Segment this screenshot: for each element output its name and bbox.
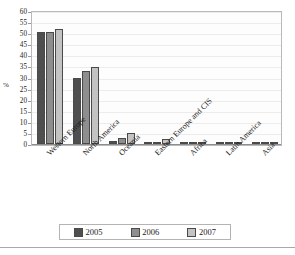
legend-item: 2005	[74, 228, 103, 237]
bar	[91, 67, 99, 144]
bar	[37, 32, 45, 144]
legend-item-label: 2005	[86, 228, 103, 237]
chart-figure: % 051015202530354045505560 Western Europ…	[0, 0, 295, 255]
legend-item-label: 2007	[199, 228, 216, 237]
y-axis-tickmark	[28, 12, 31, 13]
y-axis-tickmark	[28, 134, 31, 135]
y-axis-tickmark	[28, 34, 31, 35]
footer-divider	[0, 247, 295, 248]
y-axis-tickmark	[28, 45, 31, 46]
y-axis-tick-label: 10	[9, 119, 27, 126]
y-axis-tickmark	[28, 101, 31, 102]
y-axis-tick-label: 35	[9, 64, 27, 71]
y-axis-tickmark	[28, 79, 31, 80]
legend-item: 2006	[131, 228, 160, 237]
y-axis-tickmark	[28, 67, 31, 68]
legend-item: 2007	[187, 228, 216, 237]
y-axis-tick-label: 45	[9, 42, 27, 49]
chart-legend: 2005 2006 2007	[59, 224, 231, 240]
bar	[55, 29, 63, 144]
bar	[82, 71, 90, 144]
bar-group	[211, 11, 247, 144]
y-axis-tick-label: 30	[9, 75, 27, 82]
x-axis-category-labels: Western EuropeNorth AmericaOceaniaEaster…	[0, 149, 295, 215]
y-axis-tick-label: 50	[9, 31, 27, 38]
y-axis-tickmark	[28, 145, 31, 146]
legend-swatch-icon	[131, 228, 140, 237]
bar	[180, 142, 188, 144]
y-axis-title: %	[3, 82, 9, 89]
y-axis-tickmark	[28, 112, 31, 113]
bar-group	[32, 11, 68, 144]
y-axis-tick-label: 20	[9, 97, 27, 104]
y-axis-tick-label: 5	[9, 130, 27, 137]
bar	[46, 32, 54, 144]
y-axis-tick-labels: 051015202530354045505560	[9, 0, 27, 160]
legend-swatch-icon	[74, 228, 83, 237]
y-axis-tickmark	[28, 90, 31, 91]
y-axis-tick-label: 15	[9, 108, 27, 115]
y-axis-tick-label: 60	[9, 9, 27, 16]
bar	[252, 142, 260, 144]
y-axis-tickmark	[28, 56, 31, 57]
bar	[216, 142, 224, 144]
bar	[109, 141, 117, 144]
y-axis-tickmark	[28, 23, 31, 24]
bar-group	[140, 11, 176, 144]
y-axis-tickmark	[28, 123, 31, 124]
legend-swatch-icon	[187, 228, 196, 237]
y-axis-tick-label: 55	[9, 20, 27, 27]
legend-item-label: 2006	[142, 228, 159, 237]
bar	[144, 142, 152, 144]
y-axis-tick-label: 25	[9, 86, 27, 93]
y-axis-tick-label: 0	[9, 142, 27, 149]
y-axis-tick-label: 40	[9, 53, 27, 60]
